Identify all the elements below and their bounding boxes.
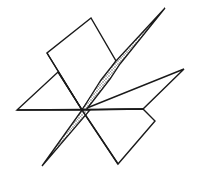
intersecting-planes-diagram <box>0 0 210 174</box>
diagram-canvas <box>0 0 210 174</box>
horizontal-axis-line <box>17 109 143 110</box>
shaded-sliver-lower <box>42 110 90 166</box>
bottom-right-pentagon-plane <box>82 109 155 164</box>
